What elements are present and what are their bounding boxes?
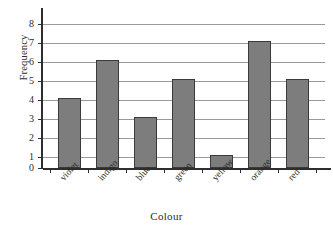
y-tick-label-7: 7: [14, 38, 34, 48]
bar-green: [172, 79, 195, 168]
bar-red: [286, 79, 309, 168]
gridline: [43, 43, 325, 44]
bar-indigo: [96, 60, 119, 168]
y-tick-mark: [38, 157, 43, 158]
x-tick-mark: [240, 168, 241, 173]
bar-blue: [134, 117, 157, 168]
y-tick-mark: [38, 100, 43, 101]
bar-violet: [58, 98, 81, 168]
y-tick-label-5: 5: [14, 76, 34, 86]
y-tick-mark: [38, 43, 43, 44]
y-tick-label-8: 8: [14, 19, 34, 29]
y-tick-mark: [38, 62, 43, 63]
y-tick-mark: [38, 168, 43, 169]
gridline: [43, 24, 325, 25]
x-axis-title: Colour: [0, 210, 333, 222]
x-tick-mark: [278, 168, 279, 173]
x-tick-mark: [126, 168, 127, 173]
x-tick-mark: [88, 168, 89, 173]
bar-orange: [248, 41, 271, 168]
x-tick-mark: [50, 168, 51, 173]
x-tick-mark: [164, 168, 165, 173]
bar-chart-figure: Frequency 8 7 6 5 4 3 2 1 0 violet: [0, 0, 333, 233]
y-tick-label-3: 3: [14, 114, 34, 124]
y-tick-label-4: 4: [14, 95, 34, 105]
y-tick-label-0: 0: [14, 163, 34, 173]
y-tick-label-6: 6: [14, 57, 34, 67]
y-tick-mark: [38, 138, 43, 139]
gridline: [43, 62, 325, 63]
y-tick-mark: [38, 24, 43, 25]
x-tick-mark: [202, 168, 203, 173]
x-tick-mark: [316, 168, 317, 173]
y-tick-label-2: 2: [14, 133, 34, 143]
y-tick-mark: [38, 119, 43, 120]
y-axis-line: [41, 8, 43, 169]
y-tick-label-1: 1: [14, 152, 34, 162]
y-tick-mark: [38, 81, 43, 82]
